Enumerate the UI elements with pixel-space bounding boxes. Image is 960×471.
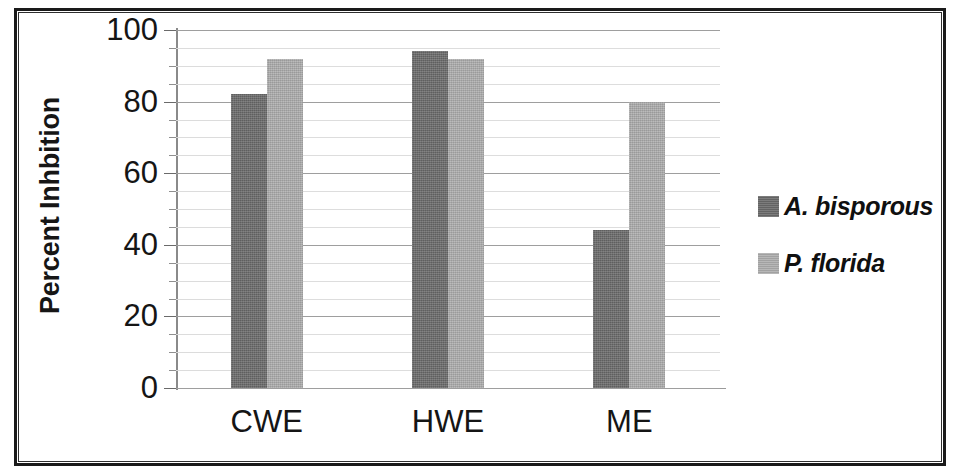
y-axis-tick-mark [169,120,176,121]
y-axis-tick-label: 20 [124,298,158,334]
x-axis-tick-label: ME [606,404,653,440]
x-axis-tick-label: HWE [412,404,484,440]
legend-swatch-icon [758,196,779,217]
legend-item-label: A. bisporous [784,192,933,221]
y-axis-tick-label: 40 [124,227,158,263]
y-axis-tick-mark [164,245,176,246]
y-axis-tick-mark [164,316,176,317]
legend-item[interactable]: A. bisporous [758,192,954,221]
gridline-minor [176,48,720,49]
y-axis-tick-mark [169,299,176,300]
y-axis-tick-mark [169,227,176,228]
y-axis-tick-mark [169,209,176,210]
y-axis-tick-mark [169,191,176,192]
y-axis-tick-label: 80 [124,84,158,120]
bar [231,94,267,388]
y-axis-tick-mark [169,137,176,138]
y-axis-tick-mark [169,281,176,282]
legend-swatch-icon [758,253,779,274]
chart-legend: A. bisporousP. florida [758,192,954,306]
y-axis-tick-mark [169,370,176,371]
y-axis-tick-label: 0 [141,370,158,406]
y-axis-tick-mark [169,66,176,67]
bar [412,51,448,388]
y-axis-tick-mark [164,173,176,174]
bar [593,230,629,388]
y-axis-tick-mark [169,334,176,335]
y-axis-tick-mark [164,102,176,103]
y-axis-tick-mark [169,84,176,85]
legend-item-label: P. florida [784,249,885,278]
gridline-major [176,388,720,389]
y-axis-tick-mark [164,30,176,31]
y-axis-tick-mark [169,155,176,156]
y-axis-tick-mark [169,263,176,264]
plot-area: 020406080100 [176,30,720,388]
bar [629,102,665,388]
chart-figure: Percent Inhbition 020406080100 CWEHWEME … [0,0,960,471]
y-axis-tick-mark [164,388,176,389]
y-axis-tick-mark [169,352,176,353]
bar [267,59,303,388]
y-axis-tick-label: 100 [106,12,158,48]
bar [448,59,484,388]
legend-item[interactable]: P. florida [758,249,954,278]
y-axis-title: Percent Inhbition [35,6,66,406]
gridline-major [176,30,720,31]
x-axis-tick-label: CWE [230,404,302,440]
y-axis-tick-mark [169,48,176,49]
y-axis-tick-label: 60 [124,155,158,191]
